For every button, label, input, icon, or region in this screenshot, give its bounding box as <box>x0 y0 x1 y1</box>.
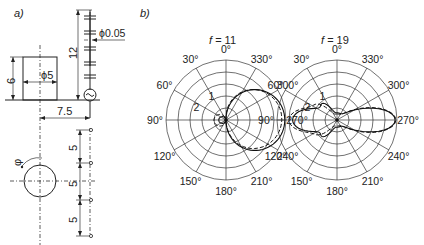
polar-plot-f19: 0°30°60°90°120°150°180°210°240°270°300°3… <box>258 43 419 197</box>
figure: a) 6 ϕ5 <box>0 0 424 245</box>
offset-dim: 7.5 <box>57 105 72 117</box>
angle-label: 210° <box>362 175 384 187</box>
angle-label: 120° <box>265 150 287 162</box>
angle-label: 60° <box>157 79 173 91</box>
angle-label: 330° <box>362 53 384 65</box>
plan-view <box>10 128 95 238</box>
spacing-dim-2: 5 <box>67 181 79 187</box>
cylinder-diameter-dim: ϕ5 <box>41 69 53 81</box>
plot-title-f19: f = 19 <box>321 34 349 46</box>
cylinder-height-dim: 6 <box>5 78 17 84</box>
panel-a-label: a) <box>14 7 24 19</box>
grid-spoke <box>174 120 226 150</box>
angle-label: 90° <box>147 114 163 126</box>
angle-label: 90° <box>258 114 274 126</box>
angle-label: 270° <box>397 114 419 126</box>
origin-dot <box>335 118 339 122</box>
angle-label: 300° <box>388 79 410 91</box>
panel-b-label: b) <box>140 7 150 19</box>
spacing-dim-1: 5 <box>67 145 79 151</box>
grid-spoke <box>226 68 256 120</box>
rotation-symbol: φ <box>11 159 23 166</box>
grid-spoke <box>337 90 389 120</box>
angle-label: 240° <box>388 150 410 162</box>
angle-label: 60° <box>268 79 284 91</box>
curve-label-1: 1 <box>209 90 215 102</box>
antenna-length-dim: 12 <box>67 47 79 59</box>
angle-label: 150° <box>180 175 202 187</box>
curve-label-1: 1 <box>320 90 326 102</box>
plot-title-f11: f = 11 <box>209 34 236 46</box>
angle-label: 30° <box>183 53 199 65</box>
spacing-dim-3: 5 <box>67 217 79 223</box>
angle-label: 210° <box>251 175 273 187</box>
grid-spoke <box>337 120 367 172</box>
angle-label: 150° <box>291 175 313 187</box>
angle-label: 330° <box>251 53 273 65</box>
angle-label: 120° <box>154 150 176 162</box>
wire-diameter-dim: ϕ0.05 <box>99 27 125 39</box>
angle-label: 180° <box>215 185 237 197</box>
angle-label: 180° <box>326 185 348 197</box>
angle-label: 30° <box>294 53 310 65</box>
grid-spoke <box>174 90 226 120</box>
curve-label-2: 2 <box>193 101 199 113</box>
grid-spoke <box>226 120 256 172</box>
grid-spoke <box>337 120 389 150</box>
grid-spoke <box>196 120 226 172</box>
grid-spoke <box>337 68 367 120</box>
